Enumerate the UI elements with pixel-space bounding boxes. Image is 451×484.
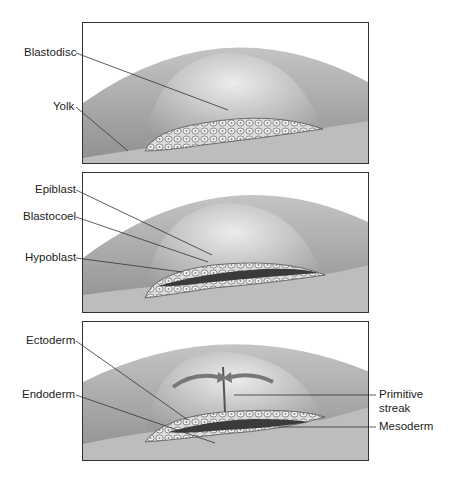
blastocoel-illustration xyxy=(83,173,369,313)
panel-c: (c) xyxy=(82,321,369,461)
primitive-streak-illustration xyxy=(83,322,369,461)
label-epiblast: Epiblast xyxy=(35,183,76,196)
blastodisc-illustration xyxy=(83,23,369,164)
label-blastodisc: Blastodisc xyxy=(24,46,76,59)
label-hypoblast: Hypoblast xyxy=(25,251,76,264)
label-mesoderm: Mesoderm xyxy=(379,420,433,433)
label-primitive-streak-1: Primitive xyxy=(379,388,423,401)
panel-a: (a) xyxy=(82,22,369,164)
label-blastocoel: Blastocoel xyxy=(23,210,76,223)
label-primitive-streak-2: streak xyxy=(379,402,410,415)
panel-b: (b) xyxy=(82,172,369,313)
label-endoderm: Endoderm xyxy=(22,388,75,401)
label-yolk: Yolk xyxy=(53,100,74,113)
label-ectoderm: Ectoderm xyxy=(26,334,75,347)
